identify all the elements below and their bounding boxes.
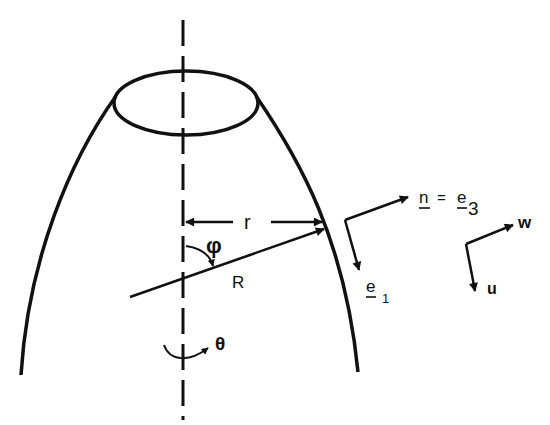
w-label: w <box>517 213 532 232</box>
theta-label: θ <box>215 333 225 354</box>
svg-text:n: n <box>419 188 428 207</box>
svg-text:=: = <box>437 189 446 206</box>
svg-text:3: 3 <box>468 198 479 219</box>
w-displacement-vector <box>466 225 513 244</box>
e1-tangent-vector <box>345 220 359 270</box>
e3-normal-vector <box>345 197 408 220</box>
theta-arc <box>164 345 208 358</box>
svg-text:e: e <box>366 277 375 296</box>
e1-label: e 1 <box>366 277 389 306</box>
n-equals-e3-label: n = e 3 <box>419 188 479 219</box>
top-opening-ellipse <box>114 71 258 135</box>
svg-text:1: 1 <box>382 291 389 306</box>
R-label: R <box>232 273 244 292</box>
shell-diagram: r R φ θ n = e 3 e 1 w u <box>0 0 550 425</box>
u-label: u <box>487 280 497 297</box>
u-displacement-vector <box>466 244 475 291</box>
svg-text:e: e <box>457 188 466 207</box>
left-meridian-curve <box>21 96 116 375</box>
r-label: r <box>244 211 251 233</box>
phi-label: φ <box>206 233 222 258</box>
R-radius-line <box>130 229 324 297</box>
